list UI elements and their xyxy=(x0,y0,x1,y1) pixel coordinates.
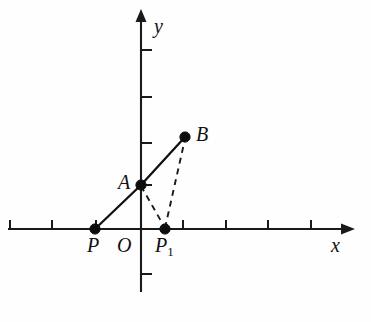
x-axis-group xyxy=(8,220,355,235)
segment-P1-B xyxy=(165,139,185,228)
coordinate-diagram: y x A B P O P1 xyxy=(0,0,371,322)
y-axis-label: y xyxy=(154,16,163,36)
point-label-p1: P1 xyxy=(155,235,174,255)
segment-A-B xyxy=(141,137,185,185)
x-axis-arrow-icon xyxy=(341,224,355,235)
point-label-p1-subscript: 1 xyxy=(167,244,174,259)
point-label-p1-base: P xyxy=(155,234,167,256)
point-B xyxy=(180,132,190,142)
point-P1 xyxy=(160,224,170,234)
y-axis-group xyxy=(136,9,153,292)
y-axis-arrow-icon xyxy=(136,9,147,22)
origin-label: O xyxy=(117,235,131,255)
x-axis-label: x xyxy=(331,235,340,255)
point-A xyxy=(136,180,146,190)
point-label-a: A xyxy=(118,172,130,192)
point-label-b: B xyxy=(196,124,208,144)
point-label-p: P xyxy=(87,235,99,255)
segment-A-P1 xyxy=(141,186,165,228)
point-P xyxy=(90,224,100,234)
diagram-canvas xyxy=(0,0,371,322)
